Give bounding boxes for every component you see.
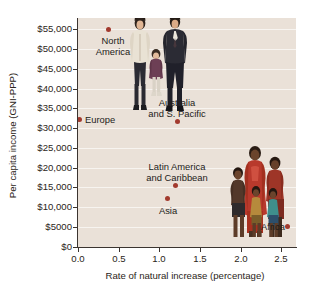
x-tick-label: 1.0 bbox=[139, 253, 179, 264]
y-tick bbox=[73, 227, 77, 228]
y-tick bbox=[73, 148, 77, 149]
label-australia: Australia and S. Pacific bbox=[146, 97, 208, 119]
datapoint-north-america[interactable] bbox=[106, 27, 111, 32]
x-tick bbox=[159, 248, 160, 252]
x-tick bbox=[78, 248, 79, 252]
y-tick bbox=[73, 108, 77, 109]
y-axis-line bbox=[77, 18, 78, 248]
y-tick-label: $10,000 bbox=[12, 202, 72, 212]
y-tick-label: $45,000 bbox=[12, 64, 72, 74]
y-tick-label: $15,000 bbox=[12, 182, 72, 192]
x-tick-label: 0.5 bbox=[99, 253, 139, 264]
y-tick bbox=[73, 187, 77, 188]
y-tick bbox=[73, 168, 77, 169]
x-tick bbox=[200, 248, 201, 252]
y-tick-label: $50,000 bbox=[12, 44, 72, 54]
y-tick-label: $55,000 bbox=[12, 24, 72, 34]
y-axis-title: Per capita income (GNI-PPP) bbox=[7, 26, 18, 246]
label-north-america: North America bbox=[84, 35, 142, 57]
y-tick-label: $5000 bbox=[12, 222, 72, 232]
y-tick bbox=[73, 247, 77, 248]
x-tick-label: 2.5 bbox=[261, 253, 301, 264]
x-tick bbox=[281, 248, 282, 252]
label-europe: Europe bbox=[85, 114, 145, 125]
x-tick-label: 0.0 bbox=[58, 253, 98, 264]
y-tick-label: $20,000 bbox=[12, 163, 72, 173]
y-tick bbox=[73, 89, 77, 90]
photo-family-africa bbox=[224, 37, 296, 237]
y-tick bbox=[73, 29, 77, 30]
y-tick-label: $0 bbox=[12, 242, 72, 252]
datapoint-africa[interactable] bbox=[285, 224, 290, 229]
x-axis-title: Rate of natural increase (percentage) bbox=[60, 270, 310, 281]
x-axis-line bbox=[77, 247, 297, 248]
y-tick bbox=[73, 49, 77, 50]
x-tick-label: 1.5 bbox=[180, 253, 220, 264]
label-africa: Africa bbox=[233, 221, 285, 232]
x-tick-label: 2.0 bbox=[221, 253, 261, 264]
x-tick bbox=[119, 248, 120, 252]
label-latin-america: Latin America and Caribbean bbox=[140, 161, 214, 183]
y-tick bbox=[73, 69, 77, 70]
label-asia: Asia bbox=[148, 205, 188, 216]
plot-area: North America Europe Australia and S. Pa… bbox=[78, 18, 296, 247]
y-tick-label: $35,000 bbox=[12, 103, 72, 113]
datapoint-australia[interactable] bbox=[175, 119, 180, 124]
y-tick bbox=[73, 128, 77, 129]
datapoint-asia[interactable] bbox=[165, 196, 170, 201]
y-tick-label: $25,000 bbox=[12, 143, 72, 153]
datapoint-latin-america[interactable] bbox=[173, 183, 178, 188]
y-tick-label: $40,000 bbox=[12, 84, 72, 94]
chart-figure: North America Europe Australia and S. Pa… bbox=[0, 0, 310, 289]
y-tick bbox=[73, 207, 77, 208]
datapoint-europe[interactable] bbox=[78, 117, 82, 122]
x-tick bbox=[241, 248, 242, 252]
y-tick-label: $30,000 bbox=[12, 123, 72, 133]
